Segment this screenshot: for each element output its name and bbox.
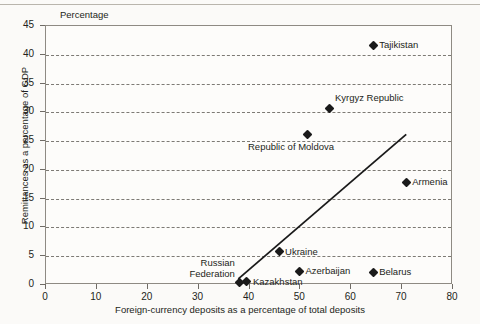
- data-point-label: Tajikistan: [379, 39, 418, 50]
- data-point-label: Belarus: [379, 266, 411, 277]
- x-tick-mark-10: [96, 284, 97, 289]
- y-tick-label-40: 40: [0, 49, 34, 59]
- x-tick-mark-40: [249, 284, 250, 289]
- top-divider-rule: [0, 4, 480, 5]
- x-tick-mark-60: [350, 284, 351, 289]
- gridline-y-15: [46, 199, 451, 200]
- data-point-label: Ukraine: [285, 246, 318, 257]
- unit-label: Percentage: [60, 9, 109, 20]
- data-point-label: Azerbaijan: [305, 265, 350, 276]
- y-tick-label-45: 45: [0, 20, 34, 30]
- x-tick-mark-70: [401, 284, 402, 289]
- y-tick-label-30: 30: [0, 106, 34, 116]
- x-tick-label-50: 50: [284, 292, 314, 302]
- data-point-label: Kyrgyz Republic: [335, 92, 404, 103]
- y-tick-label-0: 0: [0, 279, 34, 289]
- data-point-label: Russian Federation: [179, 257, 235, 279]
- y-tick-label-25: 25: [0, 135, 34, 145]
- gridline-y-20: [46, 170, 451, 171]
- x-tick-label-20: 20: [132, 292, 162, 302]
- x-tick-label-40: 40: [234, 292, 264, 302]
- y-tick-label-5: 5: [0, 250, 34, 260]
- x-tick-mark-30: [198, 284, 199, 289]
- gridline-y-10: [46, 227, 451, 228]
- plot-area: [45, 25, 452, 284]
- x-tick-label-30: 30: [183, 292, 213, 302]
- x-tick-label-0: 0: [30, 292, 60, 302]
- data-point-label: Kazakhstan: [253, 276, 303, 287]
- data-point-label: Armenia: [412, 176, 447, 187]
- x-tick-mark-20: [147, 284, 148, 289]
- y-tick-label-15: 15: [0, 193, 34, 203]
- x-axis-title: Foreign-currency deposits as a percentag…: [0, 304, 480, 315]
- gridline-y-30: [46, 112, 451, 113]
- gridline-y-40: [46, 55, 451, 56]
- x-tick-mark-80: [452, 284, 453, 289]
- gridline-y-35: [46, 84, 451, 85]
- gridline-y-5: [46, 256, 451, 257]
- x-tick-mark-0: [45, 284, 46, 289]
- data-point-label: Republic of Moldova: [248, 141, 334, 152]
- x-tick-label-80: 80: [437, 292, 467, 302]
- x-tick-label-70: 70: [386, 292, 416, 302]
- y-tick-label-20: 20: [0, 164, 34, 174]
- x-tick-label-60: 60: [335, 292, 365, 302]
- x-tick-label-10: 10: [81, 292, 111, 302]
- y-tick-label-35: 35: [0, 78, 34, 88]
- chart-figure: Percentage Remittances as a percentage o…: [0, 0, 480, 324]
- y-tick-label-10: 10: [0, 221, 34, 231]
